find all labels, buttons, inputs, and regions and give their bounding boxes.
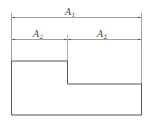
label-a2: A2 [32,29,44,40]
stepped-shape-diagram: A1 A2 AΣ [0,0,153,124]
stepped-shape-outline [12,61,142,115]
label-a1: A1 [64,7,75,18]
label-asigma: AΣ [96,29,109,40]
